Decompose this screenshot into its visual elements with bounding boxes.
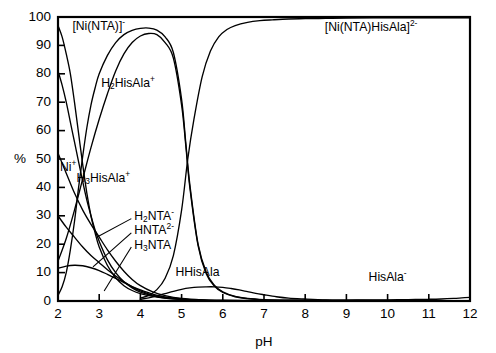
- y-tick-label: 40: [36, 179, 51, 194]
- y-tick-label: 70: [36, 94, 51, 109]
- x-axis-title: pH: [255, 334, 272, 349]
- y-tick-label: 30: [36, 207, 51, 222]
- ann-h2hisala: H2HisAla+: [101, 74, 155, 91]
- y-tick-label: 100: [28, 9, 51, 24]
- ann-h3nta: H3NTA: [134, 238, 172, 253]
- curve-h2hisala: [58, 33, 470, 300]
- x-tick-label: 3: [95, 306, 103, 321]
- species-annotations: [Ni(NTA)]-H2HisAla+Ni+H3HisAla+H2NTA-HNT…: [60, 17, 418, 284]
- plot-frame: [58, 17, 470, 301]
- x-tick-label: 12: [462, 306, 477, 321]
- x-tick-label: 8: [301, 306, 309, 321]
- ann-h3hisala: H3HisAla+: [77, 169, 131, 186]
- annotation-leader-lines: [93, 219, 131, 291]
- ann-hhisala: HHisAla: [175, 265, 219, 279]
- x-tick-label: 7: [260, 306, 268, 321]
- ann-ni: Ni+: [60, 158, 77, 174]
- chart-svg: 0102030405060708090100 23456789101112 [N…: [0, 0, 496, 353]
- x-tick-label: 9: [343, 306, 351, 321]
- ann-ni-nta: [Ni(NTA)]-: [72, 17, 125, 33]
- y-tick-label: 20: [36, 236, 51, 251]
- species-curves: [58, 18, 470, 301]
- curve-ni2: [58, 26, 470, 301]
- x-tick-label: 6: [219, 306, 227, 321]
- ann-nintahisala: [Ni(NTA)HisAla]2-: [325, 19, 418, 35]
- y-tick-label: 50: [36, 151, 51, 166]
- x-tick-label: 2: [54, 306, 62, 321]
- leader-hnta: [93, 233, 131, 267]
- x-tick-label: 11: [422, 306, 436, 321]
- curve-ni-nta: [58, 28, 470, 301]
- x-tick-label: 10: [380, 306, 395, 321]
- ann-hisala: HisAla-: [369, 268, 407, 284]
- x-tick-label: 4: [137, 306, 145, 321]
- y-tick-labels: 0102030405060708090100: [28, 9, 51, 308]
- y-axis-title: %: [14, 151, 26, 166]
- speciation-diagram: 0102030405060708090100 23456789101112 [N…: [0, 0, 496, 353]
- curve-ni-nta-hisala-2: [140, 18, 470, 298]
- ann-hnta: HNTA2-: [134, 222, 174, 238]
- y-tick-label: 0: [43, 293, 51, 308]
- curve-hnta2: [58, 216, 470, 301]
- y-tick-label: 60: [36, 122, 51, 137]
- x-tick-label: 5: [178, 306, 186, 321]
- y-tick-label: 90: [36, 37, 51, 52]
- x-tick-labels: 23456789101112: [54, 306, 477, 321]
- leader-h2nta: [97, 219, 131, 237]
- y-tick-label: 10: [36, 264, 51, 279]
- y-tick-label: 80: [36, 65, 51, 80]
